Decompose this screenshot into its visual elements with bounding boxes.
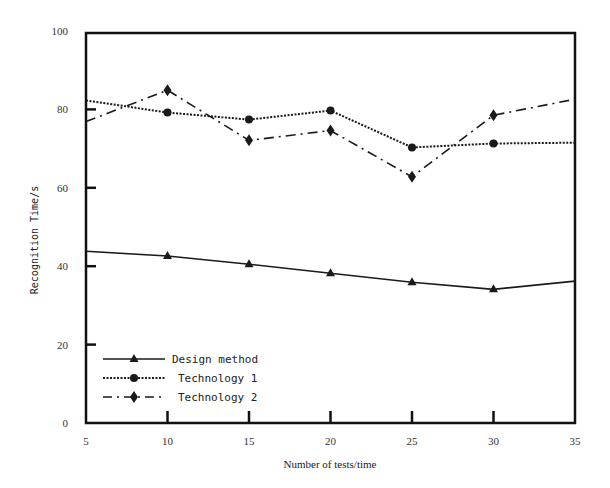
y-tick-label: 20 xyxy=(57,339,69,351)
series-technology-2 xyxy=(86,84,575,183)
circle-marker xyxy=(408,143,416,151)
circle-marker xyxy=(327,107,335,115)
y-tick-label: 0 xyxy=(63,417,69,429)
diamond-marker xyxy=(408,171,416,183)
circle-marker xyxy=(130,374,138,382)
legend-item: Technology 2 xyxy=(103,391,257,404)
y-tick-label: 60 xyxy=(57,182,69,194)
circle-marker xyxy=(245,116,253,124)
diamond-marker xyxy=(164,84,172,96)
legend-item: Design method xyxy=(103,353,258,366)
y-axis-ticks: 020406080100 xyxy=(52,25,97,429)
legend-label: Technology 2 xyxy=(178,391,257,404)
circle-marker xyxy=(490,140,498,148)
x-tick-label: 5 xyxy=(83,435,89,447)
plot-border xyxy=(86,33,575,423)
diamond-marker xyxy=(327,125,335,137)
y-tick-label: 80 xyxy=(57,103,69,115)
series-design-method xyxy=(86,251,575,292)
y-tick-label: 40 xyxy=(57,260,69,272)
line-chart: 020406080100 5101520253035 Design method… xyxy=(0,0,610,488)
x-tick-label: 15 xyxy=(244,435,256,447)
diamond-marker xyxy=(130,391,138,403)
x-axis-ticks: 5101520253035 xyxy=(83,411,581,447)
diamond-marker xyxy=(245,134,253,146)
triangle-marker xyxy=(130,354,139,362)
plot-frame xyxy=(86,33,575,423)
x-axis-title: Number of tests/time xyxy=(284,458,377,470)
x-tick-label: 20 xyxy=(325,435,337,447)
legend-label: Design method xyxy=(172,353,258,366)
y-tick-label: 100 xyxy=(52,25,69,37)
triangle-marker xyxy=(163,251,172,259)
circle-marker xyxy=(164,109,172,117)
legend-item: Technology 1 xyxy=(103,372,257,385)
x-tick-label: 25 xyxy=(407,435,419,447)
x-tick-label: 10 xyxy=(162,435,174,447)
legend-label: Technology 1 xyxy=(178,372,257,385)
x-tick-label: 35 xyxy=(570,435,582,447)
legend: Design methodTechnology 1Technology 2 xyxy=(103,353,258,404)
x-tick-label: 30 xyxy=(488,435,500,447)
diamond-marker xyxy=(490,109,498,121)
y-axis-title: Recognition Time/s xyxy=(29,186,40,294)
data-series xyxy=(86,84,575,292)
